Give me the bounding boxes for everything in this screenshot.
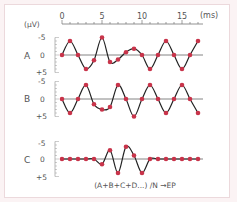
x-tick-15: 15 [177, 12, 187, 21]
sample-point [100, 107, 105, 112]
sample-point [60, 97, 65, 102]
series-c [55, 142, 203, 177]
sample-point [84, 157, 89, 162]
series-a [55, 35, 203, 72]
sample-point [68, 39, 73, 44]
sample-point [76, 157, 81, 162]
x-tick-10: 10 [137, 12, 147, 21]
panel-a: A -5 0 +5 [24, 33, 47, 77]
sample-point [68, 111, 73, 116]
sample-point [76, 53, 81, 58]
panel-c: C -5 0 +5 [24, 139, 47, 182]
sample-point [196, 157, 201, 162]
trace-line [62, 85, 198, 117]
sample-point [172, 157, 177, 162]
sample-point [180, 157, 185, 162]
sample-point [156, 97, 161, 102]
y-tick-neg5: -5 [38, 77, 46, 86]
plot-area [55, 35, 203, 176]
sample-point [148, 83, 153, 88]
trace-line [62, 37, 198, 69]
sample-point [92, 58, 97, 63]
sample-point [164, 111, 169, 116]
evoked-potential-chart: (ms) (μV) 0 5 10 15 A -5 0 +5 B -5 0 +5 … [0, 0, 237, 202]
sample-point [108, 148, 113, 153]
x-tick-5: 5 [99, 12, 104, 21]
y-unit-label: (μV) [24, 20, 40, 29]
sample-point [164, 39, 169, 44]
x-unit-label: (ms) [200, 11, 218, 20]
sample-point [188, 97, 193, 102]
sample-point [164, 157, 169, 162]
sample-point [124, 97, 129, 102]
sample-point [140, 53, 145, 58]
sample-point [172, 53, 177, 58]
sample-point [180, 83, 185, 88]
sample-point [124, 50, 129, 55]
sample-point [132, 153, 137, 158]
panel-b: B -5 0 +5 [24, 77, 47, 121]
sample-point [140, 97, 145, 102]
series-label-a: A [24, 51, 31, 61]
sample-point [148, 157, 153, 162]
sample-point [60, 157, 65, 162]
sample-point [124, 144, 129, 149]
sample-point [108, 60, 113, 65]
sample-point [92, 102, 97, 107]
sample-point [100, 162, 105, 167]
sample-point [68, 157, 73, 162]
sample-point [196, 39, 201, 44]
sample-point [76, 97, 81, 102]
sample-point [132, 114, 137, 119]
sample-point [172, 97, 177, 102]
sample-point [116, 57, 121, 62]
y-tick-pos5: +5 [36, 68, 47, 77]
y-tick-pos5: +5 [36, 173, 47, 182]
sample-point [92, 157, 97, 162]
sample-point [84, 83, 89, 88]
y-tick-0: 0 [40, 51, 45, 60]
sample-point [60, 53, 65, 58]
series-label-c: C [24, 155, 30, 165]
averaging-formula: (A+B+C+D...) /N →EP [94, 181, 176, 190]
sample-point [116, 171, 121, 176]
sample-point [108, 105, 113, 110]
sample-point [156, 53, 161, 58]
sample-point [196, 111, 201, 116]
sample-point [180, 67, 185, 72]
y-tick-neg5: -5 [38, 33, 46, 42]
y-tick-neg5: -5 [38, 139, 46, 148]
y-tick-0: 0 [40, 95, 45, 104]
trace-line [62, 146, 198, 173]
sample-point [188, 53, 193, 58]
series-b [55, 82, 203, 119]
y-tick-0: 0 [40, 155, 45, 164]
series-label-b: B [24, 94, 30, 104]
sample-point [148, 67, 153, 72]
y-tick-pos5: +5 [36, 112, 47, 121]
sample-point [132, 46, 137, 51]
x-tick-0: 0 [59, 12, 64, 21]
sample-point [140, 171, 145, 176]
sample-point [84, 67, 89, 72]
sample-point [156, 157, 161, 162]
sample-point [116, 83, 121, 88]
sample-point [188, 157, 193, 162]
sample-point [100, 35, 105, 40]
